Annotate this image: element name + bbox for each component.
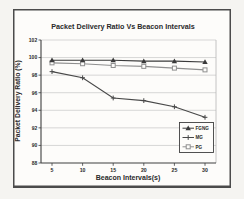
y-tick-label: 96: [32, 90, 38, 96]
x-tick-label: 30: [202, 167, 208, 173]
square-marker: [203, 68, 207, 72]
y-tick-label: 94: [32, 107, 38, 113]
y-tick-label: 102: [29, 37, 38, 43]
y-tick-label: 90: [32, 142, 38, 148]
chart-title: Packet Delivery Ratio Vs Beacon Interval…: [51, 22, 194, 31]
scanned-chart-page: Packet Delivery Ratio Vs Beacon Interval…: [0, 0, 244, 199]
chart-canvas: Packet Delivery Ratio Vs Beacon Interval…: [0, 0, 244, 199]
square-marker: [172, 66, 176, 70]
x-axis-title: Beacon Intervals(s): [96, 174, 161, 182]
legend-group: FGNGMGPG: [180, 123, 214, 153]
figure-frame: [14, 10, 231, 187]
y-tick-label: 98: [32, 72, 38, 78]
square-marker: [142, 64, 146, 68]
legend-label-PG: PG: [196, 145, 203, 150]
y-tick-label: 100: [29, 54, 38, 60]
x-tick-label: 10: [80, 167, 86, 173]
y-tick-label: 88: [32, 160, 38, 166]
x-tick-label: 5: [51, 167, 54, 173]
legend-label-FGNG: FGNG: [196, 126, 210, 131]
x-tick-label: 15: [110, 167, 116, 173]
y-axis-title: Packet Delivery Ratio (%): [14, 60, 22, 142]
square-marker: [186, 145, 190, 149]
x-tick-label: 20: [141, 167, 147, 173]
legend-label-MG: MG: [196, 135, 204, 140]
y-tick-label: 92: [32, 125, 38, 131]
x-tick-label: 25: [172, 167, 178, 173]
square-marker: [81, 62, 85, 66]
square-marker: [111, 63, 115, 67]
